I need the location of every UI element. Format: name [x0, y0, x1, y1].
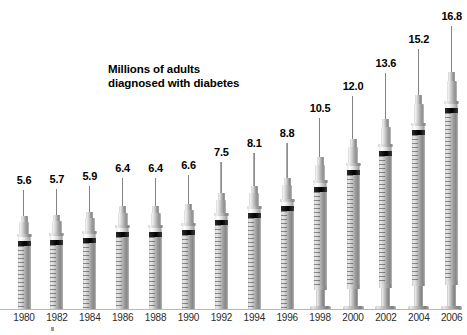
syringe-hub [381, 127, 391, 144]
syringe-icon [403, 49, 435, 310]
syringe-barrel [379, 156, 392, 283]
syringe-plunger-rod [316, 290, 325, 306]
syringe-needle-neck [350, 139, 357, 147]
syringe-barrel [412, 135, 425, 283]
syringe-needle-neck [284, 178, 291, 185]
syringe-icon [238, 153, 270, 310]
syringe-icon [74, 186, 106, 310]
syringe-needle [188, 175, 189, 204]
syringe-needle-neck [317, 157, 324, 164]
syringe-icon [304, 118, 336, 310]
x-axis-label-1998: 1998 [304, 312, 336, 323]
syringe-barrel [445, 113, 458, 282]
syringe-needle-neck [152, 206, 159, 212]
x-axis-label-2000: 2000 [337, 312, 369, 323]
x-axis-line [0, 309, 459, 310]
syringe-needle-neck [218, 193, 225, 200]
syringe-barrel [83, 243, 96, 310]
syringe-needle [23, 190, 24, 216]
syringe-hub [315, 165, 325, 180]
syringe-bar-1996: 8.8 [271, 0, 303, 310]
syringe-needle [155, 178, 156, 206]
source-mark-artifact [51, 327, 54, 331]
syringe-barrel [281, 211, 294, 310]
syringe-bar-1982: 5.7 [41, 0, 73, 310]
syringe-icon [41, 189, 73, 310]
syringe-needle [89, 186, 90, 213]
x-axis-label-1994: 1994 [238, 312, 270, 323]
x-axis-labels: 1980198219841986198819901992199419961998… [0, 312, 459, 328]
syringe-bar-1980: 5.6 [8, 0, 40, 310]
value-label-2002: 13.6 [370, 57, 402, 69]
syringe-hub [85, 218, 95, 230]
x-axis-label-1990: 1990 [173, 312, 205, 323]
chart-plot-area: 5.65.75.96.46.46.67.58.18.810.512.013.61… [0, 0, 459, 310]
syringe-bar-2000: 12.0 [337, 0, 369, 310]
chart-title: Millions of adults diagnosed with diabet… [108, 62, 298, 90]
syringe-needle-neck [119, 206, 126, 212]
syringe-bar-1984: 5.9 [74, 0, 106, 310]
syringe-bar-2002: 13.6 [370, 0, 402, 310]
syringe-needle [286, 143, 287, 177]
syringe-barrel [248, 218, 261, 310]
syringe-needle-neck [448, 72, 455, 81]
value-label-1982: 5.7 [41, 173, 73, 185]
value-label-1988: 6.4 [140, 162, 172, 174]
syringe-barrel [182, 235, 195, 310]
syringe-needle [220, 162, 221, 193]
syringe-icon [205, 162, 237, 310]
value-label-1990: 6.6 [173, 159, 205, 171]
syringe-needle-neck [382, 119, 389, 127]
syringe-needle-neck [415, 95, 422, 104]
value-label-1984: 5.9 [74, 170, 106, 182]
syringe-icon [436, 26, 467, 310]
syringe-hub [52, 221, 62, 233]
syringe-hub [118, 213, 128, 226]
chart-title-line-2: diagnosed with diabetes [108, 76, 298, 90]
syringe-barrel [347, 175, 360, 285]
syringe-icon [370, 73, 402, 310]
syringe-bar-1998: 10.5 [304, 0, 336, 310]
value-label-1996: 8.8 [271, 127, 303, 139]
syringe-needle [319, 118, 320, 157]
syringe-needle [253, 153, 254, 186]
value-label-1980: 5.6 [8, 174, 40, 186]
syringe-needle [122, 178, 123, 206]
x-axis-label-1982: 1982 [41, 312, 73, 323]
syringe-icon [337, 96, 369, 310]
syringe-bar-1988: 6.4 [140, 0, 172, 310]
syringe-hub [447, 81, 457, 100]
value-label-1998: 10.5 [304, 102, 336, 114]
x-axis-label-1980: 1980 [8, 312, 40, 323]
syringe-needle-neck [251, 186, 258, 193]
syringe-hub [282, 185, 292, 199]
value-label-1986: 6.4 [107, 162, 139, 174]
value-label-2004: 15.2 [403, 33, 435, 45]
syringe-bar-2006: 16.8 [436, 0, 467, 310]
syringe-needle [451, 26, 452, 72]
x-axis-label-1992: 1992 [205, 312, 237, 323]
syringe-hub [216, 200, 226, 213]
syringe-barrel [314, 192, 327, 286]
x-axis-label-1984: 1984 [74, 312, 106, 323]
syringe-plunger-rod [381, 288, 390, 306]
syringe-hub [151, 213, 161, 226]
syringe-hub [184, 210, 194, 223]
syringe-icon [173, 175, 205, 310]
value-label-2000: 12.0 [337, 80, 369, 92]
value-label-1994: 8.1 [238, 137, 270, 149]
x-axis-label-1986: 1986 [107, 312, 139, 323]
syringe-barrel [18, 246, 31, 310]
syringe-needle [418, 49, 419, 95]
syringe-plunger-rod [349, 289, 358, 306]
syringe-plunger-rod [414, 286, 423, 306]
syringe-icon [271, 143, 303, 310]
syringe-icon [8, 190, 40, 310]
value-label-1992: 7.5 [205, 146, 237, 158]
chart-title-line-1: Millions of adults [108, 62, 298, 76]
x-axis-label-1996: 1996 [271, 312, 303, 323]
syringe-barrel [149, 237, 162, 310]
syringe-bar-1990: 6.6 [173, 0, 205, 310]
syringe-bar-2004: 15.2 [403, 0, 435, 310]
